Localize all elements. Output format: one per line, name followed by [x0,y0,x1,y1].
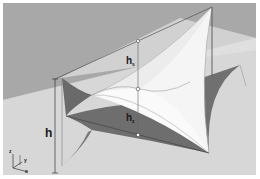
sag-label: hs [126,56,135,67]
axis-z-label: z [9,149,12,154]
axis-triad-icon [8,148,38,175]
bottom-marker [137,134,140,137]
axis-x-label: x [25,169,28,174]
diagram-frame: h hs hz z y x [3,3,256,175]
center-marker [136,87,140,91]
rise-label: hz [126,113,135,124]
membrane-diagram [3,3,256,175]
total-height-label: h [45,127,52,139]
top-marker [136,39,139,42]
axis-y-label: y [24,158,27,163]
